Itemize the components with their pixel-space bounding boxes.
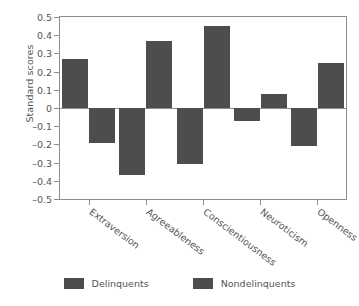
y-tick-mark [54,144,60,145]
bar [119,108,145,175]
y-tick-mark [54,17,60,18]
x-category-label: Openness [316,206,359,243]
y-tick-label: 0.1 [37,84,52,95]
y-tick-label: 0 [46,103,52,114]
bar [62,59,88,108]
y-tick-label: –0.1 [32,121,52,132]
y-tick-mark [54,181,60,182]
legend-label: Nondelinquents [221,278,296,289]
bar [177,108,203,164]
x-category-label: Agreeableness [144,206,207,257]
y-tick-mark [54,90,60,91]
y-tick-label: 0.2 [37,66,52,77]
y-tick-mark [54,163,60,164]
bar [318,63,344,109]
x-tick-mark [260,199,261,205]
y-tick-label: 0.4 [37,30,52,41]
bar [291,108,317,146]
x-tick-mark [146,199,147,205]
bar [261,94,287,108]
legend-label: Delinquents [92,278,149,289]
y-tick-mark [54,35,60,36]
legend-swatch-icon [64,278,84,289]
plot-area: 0.50.40.30.20.10–0.1–0.2–0.3–0.4–0.5 [59,16,347,200]
chart-figure: Standard scores 0.50.40.30.20.10–0.1–0.2… [0,0,359,306]
y-tick-label: –0.4 [32,175,52,186]
x-tick-mark [89,199,90,205]
chart-legend: DelinquentsNondelinquents [0,278,359,289]
x-category-label: Neuroticism [259,206,311,249]
y-tick-label: 0.5 [37,12,52,23]
y-tick-label: 0.3 [37,48,52,59]
y-tick-label: –0.2 [32,139,52,150]
legend-item[interactable]: Nondelinquents [193,278,296,289]
y-tick-mark [54,199,60,200]
x-tick-mark [203,199,204,205]
y-tick-mark [54,126,60,127]
x-category-label: Extraversion [87,206,141,251]
y-axis-label: Standard scores [24,9,35,159]
plot-inner: 0.50.40.30.20.10–0.1–0.2–0.3–0.4–0.5 [60,17,346,199]
legend-item[interactable]: Delinquents [64,278,149,289]
y-tick-mark [54,53,60,54]
bar [204,26,230,108]
bar [89,108,115,143]
x-tick-mark [317,199,318,205]
legend-swatch-icon [193,278,213,289]
y-tick-label: –0.5 [32,194,52,205]
y-tick-label: –0.3 [32,157,52,168]
y-tick-mark [54,72,60,73]
bar [146,41,172,108]
bar [234,108,260,121]
